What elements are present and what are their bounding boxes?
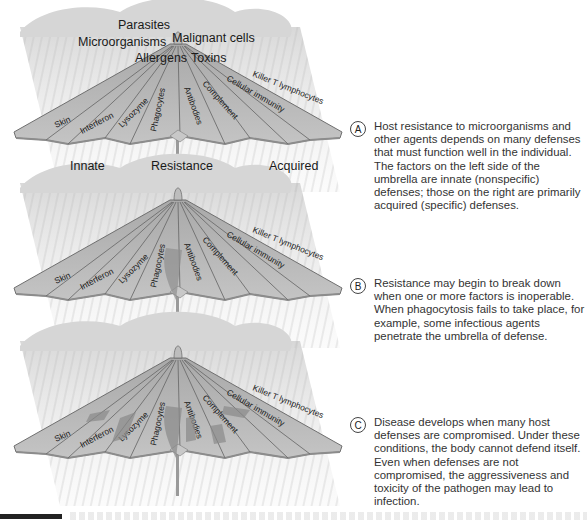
panel-a-caption: A Host resistance to microorganisms and … (350, 120, 585, 212)
panel-c-caption: C Disease develops when many host defens… (350, 416, 585, 508)
threat-malignant-cells: Malignant cells (172, 31, 255, 45)
threat-parasites: Parasites (118, 18, 170, 32)
threat-toxins: Toxins (191, 51, 226, 65)
panel-b-caption: B Resistance may begin to break down whe… (350, 277, 585, 343)
umbrella-defense-diagram: Skin Interferon Lysozyme Phagocytes Anti… (0, 0, 587, 522)
panel-c-text: Disease develops when many host defenses… (374, 416, 585, 508)
panel-a-text: Host resistance to microorganisms and ot… (374, 120, 585, 212)
panel-letter-a: A (350, 121, 366, 137)
threat-microorganisms: Microorganisms (78, 35, 166, 49)
panel-b-text: Resistance may begin to break down when … (374, 277, 585, 343)
threat-allergens: Allergens (135, 51, 187, 65)
panel-letter-c: C (350, 417, 366, 433)
figure-caption-cutoff (70, 512, 587, 520)
figure-label-bar (0, 514, 62, 519)
label-innate: Innate (70, 159, 105, 173)
label-acquired: Acquired (269, 159, 318, 173)
panel-letter-b: B (350, 278, 366, 294)
label-resistance: Resistance (151, 159, 213, 173)
